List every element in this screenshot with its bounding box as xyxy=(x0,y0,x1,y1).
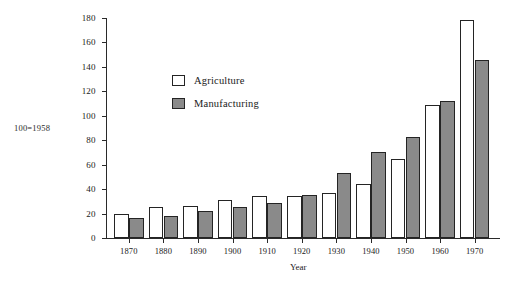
x-tick-label: 1900 xyxy=(224,246,241,256)
y-tick-label: 100 xyxy=(70,111,96,121)
y-tick-mark xyxy=(102,165,107,166)
bar-manufacturing xyxy=(475,60,490,238)
y-axis-line xyxy=(106,18,107,239)
unit-note-label: 100=1958 xyxy=(14,123,50,133)
y-tick-mark xyxy=(102,214,107,215)
bar-manufacturing xyxy=(164,216,179,238)
y-tick-label: 40 xyxy=(70,184,96,194)
bar-manufacturing xyxy=(406,137,421,238)
y-tick-mark xyxy=(102,140,107,141)
x-tick-mark xyxy=(233,239,234,243)
y-tick-label: 160 xyxy=(70,37,96,47)
x-tick-mark xyxy=(406,239,407,243)
x-tick-label: 1930 xyxy=(328,246,345,256)
x-tick-mark xyxy=(163,239,164,243)
y-tick-mark xyxy=(102,238,107,239)
y-tick-label: 120 xyxy=(70,86,96,96)
x-tick-label: 1920 xyxy=(293,246,310,256)
bar-manufacturing xyxy=(129,218,144,238)
bar-manufacturing xyxy=(302,195,317,238)
bar-agriculture xyxy=(114,214,129,238)
bar-manufacturing xyxy=(233,207,248,238)
x-tick-mark xyxy=(371,239,372,243)
x-tick-mark xyxy=(198,239,199,243)
y-tick-mark xyxy=(102,67,107,68)
y-tick-label: 140 xyxy=(70,62,96,72)
x-tick-label: 1880 xyxy=(155,246,172,256)
bar-agriculture xyxy=(183,206,198,238)
x-tick-label: 1950 xyxy=(397,246,414,256)
x-tick-mark xyxy=(129,239,130,243)
bar-agriculture xyxy=(252,196,267,238)
bar-agriculture xyxy=(149,207,164,238)
legend-label-manufacturing: Manufacturing xyxy=(194,98,259,109)
x-tick-label: 1910 xyxy=(258,246,275,256)
legend-label-agriculture: Agriculture xyxy=(194,75,245,86)
y-tick-label: 0 xyxy=(70,233,96,243)
bar-manufacturing xyxy=(267,203,282,238)
bar-agriculture xyxy=(218,200,233,238)
x-tick-mark xyxy=(336,239,337,243)
bar-agriculture xyxy=(391,159,406,238)
x-tick-mark xyxy=(475,239,476,243)
legend-swatch-manufacturing xyxy=(172,98,185,109)
x-tick-label: 1870 xyxy=(120,246,137,256)
y-tick-label: 60 xyxy=(70,160,96,170)
y-tick-mark xyxy=(102,189,107,190)
bar-agriculture xyxy=(287,196,302,238)
bar-agriculture xyxy=(322,193,337,238)
bar-agriculture xyxy=(425,105,440,238)
y-tick-label: 20 xyxy=(70,209,96,219)
y-tick-mark xyxy=(102,42,107,43)
y-tick-label: 180 xyxy=(70,13,96,23)
x-tick-mark xyxy=(267,239,268,243)
legend-swatch-agriculture xyxy=(172,75,185,86)
y-tick-mark xyxy=(102,116,107,117)
x-tick-label: 1960 xyxy=(431,246,448,256)
bar-agriculture xyxy=(460,20,475,238)
y-tick-mark xyxy=(102,18,107,19)
x-tick-mark xyxy=(302,239,303,243)
bar-manufacturing xyxy=(198,211,213,238)
y-tick-mark xyxy=(102,91,107,92)
bar-manufacturing xyxy=(371,152,386,238)
bar-chart: 020406080100120140160180100=195818701880… xyxy=(0,0,515,286)
bar-agriculture xyxy=(356,184,371,238)
bar-manufacturing xyxy=(337,173,352,238)
y-tick-label: 80 xyxy=(70,135,96,145)
x-tick-label: 1890 xyxy=(189,246,206,256)
x-tick-label: 1940 xyxy=(362,246,379,256)
x-tick-label: 1970 xyxy=(466,246,483,256)
bar-manufacturing xyxy=(440,101,455,238)
x-axis-title: Year xyxy=(290,262,307,272)
x-tick-mark xyxy=(440,239,441,243)
